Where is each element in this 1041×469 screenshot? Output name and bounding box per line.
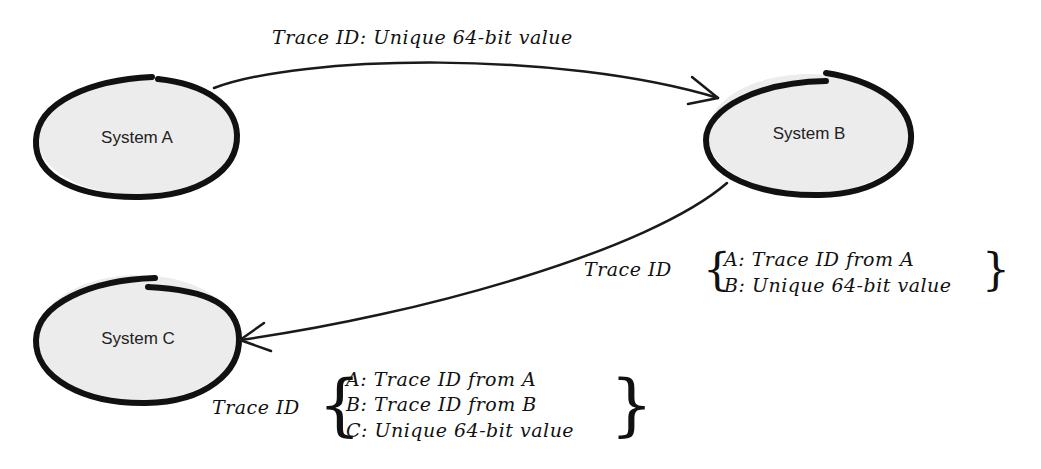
annotation-entry: B: Unique 64-bit value (723, 274, 952, 296)
node-label: System A (101, 128, 173, 147)
edge-b-to-c-annotation: Trace ID { A: Trace ID from A B: Unique … (584, 244, 1010, 296)
annotation-entry: A: Trace ID from A (722, 248, 914, 270)
right-brace-icon: } (982, 244, 1010, 295)
node-c-annotation: Trace ID { A: Trace ID from A B: Trace I… (212, 365, 653, 444)
node-system-b: System B (706, 73, 911, 195)
edge-line (214, 63, 718, 98)
right-brace-icon: } (610, 365, 653, 444)
node-label: System C (101, 329, 175, 348)
node-system-c: System C (36, 275, 240, 403)
node-label: System B (773, 124, 846, 143)
annotation-entry: C: Unique 64-bit value (346, 419, 574, 441)
edge-a-to-b: Trace ID: Unique 64-bit value (214, 26, 718, 104)
annotation-entry: A: Trace ID from A (344, 368, 536, 390)
annotation-prefix: Trace ID (584, 258, 672, 280)
node-system-a: System A (36, 77, 237, 197)
edge-label: Trace ID: Unique 64-bit value (272, 26, 573, 48)
trace-id-propagation-diagram: System A System B System C Trace ID: Uni… (0, 0, 1041, 469)
annotation-entry: B: Trace ID from B (345, 393, 537, 415)
annotation-prefix: Trace ID (212, 396, 300, 418)
